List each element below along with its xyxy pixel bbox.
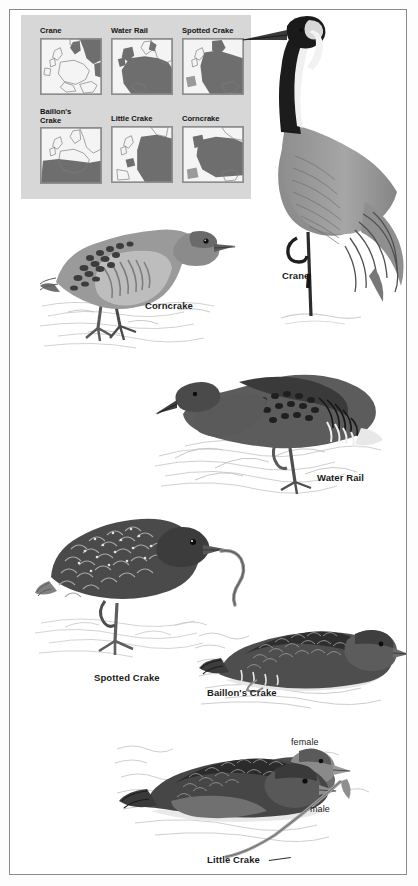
map-cell-baillons-crake[interactable]: Baillon'sCrake <box>40 108 102 184</box>
minimap-water-rail[interactable] <box>111 38 173 95</box>
map-title-little-crake: Little Crake <box>111 115 173 124</box>
illustration-water-rail <box>155 370 405 505</box>
map-cell-water-rail[interactable]: Water Rail <box>111 27 173 95</box>
label-spotted-crake: Spotted Crake <box>94 673 160 683</box>
label-little-crake-male: male <box>310 805 330 815</box>
map-title-line2: Crake <box>40 116 61 125</box>
illustration-corncrake <box>38 228 268 358</box>
minimap-little-crake[interactable] <box>111 126 173 183</box>
illustration-little-crake <box>115 735 375 860</box>
map-title-line1: Baillon's <box>40 107 71 116</box>
label-water-rail: Water Rail <box>317 473 364 483</box>
map-cell-little-crake[interactable]: Little Crake <box>111 115 173 183</box>
map-title-crane: Crane <box>40 27 102 36</box>
map-title-baillons-crake: Baillon'sCrake <box>40 108 102 125</box>
map-cell-crane[interactable]: Crane <box>40 27 102 95</box>
label-corncrake: Corncrake <box>145 301 193 311</box>
minimap-baillons-crake[interactable] <box>40 127 102 184</box>
distribution-map-panel: Crane <box>21 15 251 199</box>
label-little-crake: Little Crake <box>207 855 260 865</box>
field-guide-plate: Crane <box>9 9 407 875</box>
label-baillons-crake: Baillon's Crake <box>207 688 277 698</box>
map-title-water-rail: Water Rail <box>111 27 173 36</box>
label-little-crake-female: female <box>291 738 319 748</box>
minimap-crane[interactable] <box>40 38 102 95</box>
label-crane: Crane <box>282 271 309 281</box>
illustration-baillons-crake <box>195 618 407 713</box>
